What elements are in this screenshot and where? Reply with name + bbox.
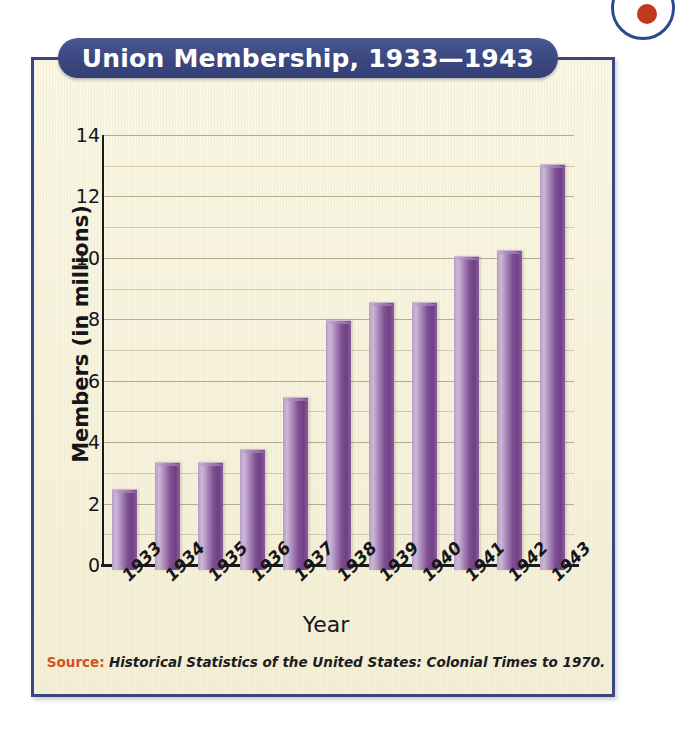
x-axis-title: Year bbox=[34, 612, 618, 637]
chart-panel: Members (in millions) Year 02468101214 1… bbox=[31, 57, 615, 697]
bar bbox=[412, 302, 437, 570]
y-axis-line bbox=[102, 135, 104, 565]
bar bbox=[454, 256, 479, 570]
circle-badge-center-icon bbox=[637, 4, 657, 24]
y-axis-tick-label: 10 bbox=[60, 247, 100, 269]
y-axis-tick-label: 2 bbox=[60, 493, 100, 515]
gridline-minor bbox=[103, 227, 574, 228]
y-axis-tick-label: 12 bbox=[60, 185, 100, 207]
bar bbox=[497, 250, 522, 570]
source-note-text: Historical Statistics of the United Stat… bbox=[109, 654, 605, 670]
y-axis-tick-label: 6 bbox=[60, 370, 100, 392]
y-axis-tick-label: 8 bbox=[60, 308, 100, 330]
source-note: Source: Historical Statistics of the Uni… bbox=[34, 654, 618, 670]
y-axis-tick-label: 14 bbox=[60, 124, 100, 146]
source-note-label: Source: bbox=[47, 654, 105, 670]
plot-area: 02468101214 1933193419351936193719381939… bbox=[103, 135, 574, 570]
bar bbox=[540, 164, 565, 570]
bar bbox=[326, 320, 351, 570]
y-axis-tick-label: 4 bbox=[60, 431, 100, 453]
chart-title-banner: Union Membership, 1933—1943 bbox=[58, 38, 558, 78]
gridline-major bbox=[103, 196, 574, 197]
plot-wrapper: Members (in millions) Year 02468101214 1… bbox=[34, 60, 618, 700]
bar bbox=[369, 302, 394, 570]
y-axis-tick-label: 0 bbox=[60, 554, 100, 576]
chart-title: Union Membership, 1933—1943 bbox=[82, 44, 534, 73]
gridline-major bbox=[103, 135, 574, 136]
gridline-minor bbox=[103, 166, 574, 167]
